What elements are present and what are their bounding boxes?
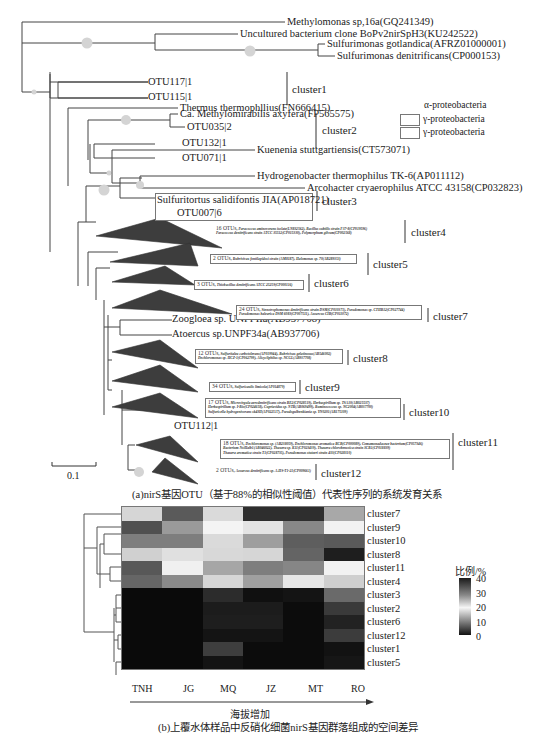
heatmap-col-label: TNH (132, 683, 153, 694)
cluster-label: cluster6 (314, 277, 349, 289)
heatmap-row-label: cluster5 (367, 656, 400, 670)
cluster-label: cluster8 (353, 352, 388, 364)
heatmap-row-label: cluster3 (367, 588, 400, 602)
clade-taxa: Azoarcus denitrificans sp. A.HS-T1-21(CP… (236, 469, 311, 473)
clade-taxa: Thauera aromatica strain T1(CP028735), P… (223, 451, 351, 455)
otu-count: 24 OTUs, (239, 306, 261, 312)
row-dendrogram (0, 500, 125, 675)
legend-label: γ-proteobacteria (423, 114, 485, 124)
heatmap-row-cluster9 (122, 521, 364, 535)
heatmap-row-label: cluster1 (367, 642, 400, 656)
otu-count: 34 OTUs, (212, 383, 234, 389)
heatmap-grid (121, 506, 365, 670)
clade-annotation-cluster11: 18 OTUs, Dechloromonas sp. (AB238059), D… (220, 439, 450, 459)
legend-label: γ-proteobacteria (423, 127, 485, 137)
heatmap-row-cluster5 (122, 656, 364, 670)
cluster-label: cluster3 (322, 195, 357, 207)
heatmap-row-cluster4 (122, 575, 364, 589)
taxon-label: Kuenenia stuttgartiensis(CT573071) (257, 144, 410, 156)
otu-count: 17 OTUs, (208, 399, 230, 405)
heatmap-row-label: cluster9 (367, 521, 400, 535)
heatmap-row-cluster3 (122, 588, 364, 602)
heatmap-row-cluster6 (122, 615, 364, 629)
clade-annotation-cluster4: 16 OTUs, Paracoccus aminovorans isolate(… (216, 226, 367, 236)
panel-b-caption: (b)上覆水体样品中反硝化细菌nirS基因群落组成的空间差异 (158, 719, 418, 734)
heatmap-row-label: cluster10 (367, 534, 406, 548)
heatmap-row-label: cluster2 (367, 602, 400, 616)
taxon-label: Arcohacter cryaerophilus ATCC 43158(CP03… (307, 182, 523, 194)
heatmap-row-cluster2 (122, 602, 364, 616)
taxon-label: OTU071|1 (182, 152, 227, 164)
cluster-label: cluster11 (458, 436, 498, 448)
clade-annotation-cluster6: 3 OTUs, Thiobacillus denitrificans ATCC … (194, 280, 304, 290)
otu-count: 16 OTUs, (216, 225, 238, 231)
heatmap-row-label: cluster12 (367, 629, 406, 643)
taxon-label: Atoercus sp.UNPF34a(AB937706) (172, 328, 320, 340)
heatmap-row-cluster10 (122, 534, 364, 548)
taxon-label: Sulfurimonas denitrificans(CP000153) (337, 50, 500, 62)
heatmap-col-label: JZ (266, 683, 276, 694)
heatmap-row-label: cluster11 (367, 561, 405, 575)
cluster-label: cluster9 (305, 381, 340, 393)
colorbar-tick: 40 (476, 573, 486, 584)
legend-swatch (400, 127, 420, 139)
heatmap-col-label: RO (351, 683, 365, 694)
heatmap-row-label: cluster6 (367, 615, 400, 629)
clade-taxa: Sulfuricella hydrogenivorans sk43H(AP022… (208, 410, 348, 414)
taxon-label: OTU132|1 (182, 137, 227, 149)
clade-annotation-cluster8: 12 OTUs, Sulfuritalea carbotolerans(AP01… (195, 349, 343, 364)
cluster-label: cluster10 (409, 406, 449, 418)
cluster-label: cluster2 (322, 124, 357, 136)
taxon-label: OTU007|6 (177, 207, 222, 219)
clade-taxa: Paracoccus denitrificans strain ATCC 355… (216, 231, 352, 235)
otu-count: 18 OTUs, (223, 440, 245, 446)
scale-bar-label: 0.1 (67, 470, 80, 481)
elevation-arrow-icon (130, 698, 375, 706)
legend-alpha: α-proteobacteria (400, 100, 486, 110)
cluster-label: cluster4 (411, 226, 446, 238)
heatmap-row-cluster1 (122, 642, 364, 656)
colorbar-tick: 20 (476, 602, 486, 613)
otu-count: 2 OTUs, (213, 255, 232, 261)
otu-count: 3 OTUs, (197, 281, 216, 287)
colorbar-tick: 30 (476, 588, 486, 599)
colorbar-tick: 10 (476, 617, 486, 628)
taxon-label: Sulfuritortus salidifontis JIA(AP018721) (157, 194, 329, 206)
colorbar-tick: 0 (476, 631, 481, 642)
clade-taxa: Pseudomonas balearica DSM 6083(CP007511)… (239, 312, 349, 316)
heatmap-row-cluster8 (122, 548, 364, 562)
clade-annotation-cluster12: 2 OTUs, Azoarcus denitrificans sp. A.HS-… (216, 468, 311, 473)
heatmap-row-label: cluster4 (367, 575, 400, 589)
clade-annotation-cluster5: 2 OTUs, Rubrivivax fontilapidosi strain … (210, 254, 357, 264)
heatmap-row-cluster12 (122, 629, 364, 643)
heatmap-row-label: cluster7 (367, 507, 400, 521)
panel-a-caption: (a)nirS基因OTU（基于88%的相似性阈值）代表性序列的系统发育关系 (132, 486, 442, 501)
heatmap-col-label: MQ (220, 683, 236, 694)
otu-count: 12 OTUs, (198, 350, 220, 356)
clade-taxa: Dechloromonas sp. HCZ-1(CP062799), Alicy… (198, 356, 311, 360)
cluster-label: cluster12 (321, 467, 361, 479)
clade-annotation-cluster9: 34 OTUs, Sulfuricaulis limicola(AP014879… (209, 382, 296, 392)
heatmap-col-label: JG (183, 683, 194, 694)
clade-annotation-cluster7: 24 OTUs, Stenotrophomonas denitrificans … (236, 305, 422, 320)
legend-label: α-proteobacteria (424, 100, 486, 110)
phylogenetic-tree (0, 0, 556, 500)
otu-count: 2 OTUs, (216, 467, 235, 473)
colorbar (459, 578, 471, 635)
clade-annotation-cluster10: 17 OTUs, Microvirgula aerodenitrificans … (205, 398, 401, 418)
clade-taxa: Rubrivivax fontilapidosi strain (AM8187)… (233, 257, 341, 261)
cluster-label: cluster1 (292, 83, 327, 95)
taxon-label: Sulfurimonas gotlandica(AFRZ01000001) (327, 38, 506, 50)
taxon-label: OTU112|1 (174, 420, 218, 432)
clade-taxa: Thiobacillus denitrificans ATCC 25259(CP… (217, 283, 293, 287)
heatmap-row-cluster11 (122, 561, 364, 575)
legend-gamma-2: γ-proteobacteria (400, 127, 485, 139)
cluster-label: cluster7 (433, 310, 468, 322)
taxon-label: OTU117|1 (148, 76, 192, 88)
heatmap-row-label: cluster8 (367, 548, 400, 562)
taxon-label: Hydrogenobacter thermophilus TK-6(AP0111… (257, 170, 464, 182)
taxon-label: Ca. Methylomirabilis axyfera(FP565575) (180, 108, 354, 120)
taxon-label: Methylomonas sp,16a(GQ241349) (287, 16, 433, 28)
legend-swatch (400, 114, 420, 126)
cluster-label: cluster5 (373, 258, 408, 270)
